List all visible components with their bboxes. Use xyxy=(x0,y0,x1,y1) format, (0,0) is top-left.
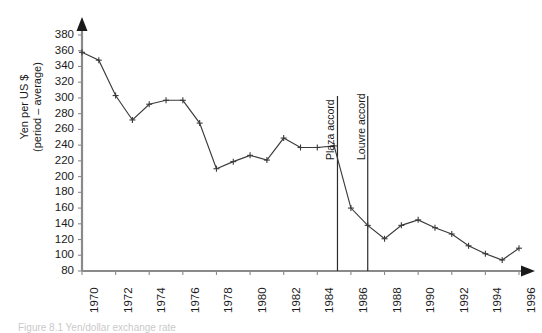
data-point-marker xyxy=(482,251,488,257)
data-point-marker xyxy=(298,144,304,150)
x-tick-label: 1980 xyxy=(256,287,268,313)
data-point-marker xyxy=(230,159,236,165)
y-tick-label: 300 xyxy=(44,91,74,103)
y-tick-label: 340 xyxy=(44,59,74,71)
figure-container: Yen per US $ (period – average) 80100120… xyxy=(0,0,542,333)
data-point-marker xyxy=(314,144,320,150)
x-tick-label: 1978 xyxy=(222,287,234,313)
x-tick-label: 1990 xyxy=(424,287,436,313)
y-tick-label: 220 xyxy=(44,154,74,166)
y-tick-label: 140 xyxy=(44,217,74,229)
x-tick-label: 1996 xyxy=(525,287,537,313)
data-point-marker xyxy=(96,57,102,63)
data-point-marker xyxy=(432,225,438,231)
y-tick-label: 280 xyxy=(44,107,74,119)
line-chart-plot xyxy=(0,0,542,333)
y-tick-label: 260 xyxy=(44,122,74,134)
data-point-marker xyxy=(247,152,253,158)
annotation-label: Plaza accord xyxy=(324,99,336,160)
data-point-marker xyxy=(163,97,169,103)
x-tick-label: 1986 xyxy=(357,287,369,313)
y-tick-label: 360 xyxy=(44,44,74,56)
x-tick-label: 1984 xyxy=(323,287,335,313)
annotation-label: Louvre accord xyxy=(355,93,367,160)
y-tick-label: 160 xyxy=(44,201,74,213)
series-polyline xyxy=(82,52,519,260)
y-tick-label: 200 xyxy=(44,170,74,182)
data-point-marker xyxy=(213,166,219,172)
figure-caption: Figure 8.1 Yen/dollar exchange rate xyxy=(18,322,176,333)
y-tick-label: 80 xyxy=(44,264,74,276)
series-markers xyxy=(79,49,522,263)
data-point-marker xyxy=(415,217,421,223)
y-axis-arrow-icon xyxy=(77,17,88,31)
x-tick-label: 1992 xyxy=(458,287,470,313)
x-tick-label: 1974 xyxy=(155,287,167,313)
x-tick-label: 1988 xyxy=(391,287,403,313)
x-tick-label: 1982 xyxy=(290,287,302,313)
y-tick-label: 380 xyxy=(44,28,74,40)
y-tick-label: 180 xyxy=(44,185,74,197)
data-series-group xyxy=(79,49,522,263)
x-tick-label: 1970 xyxy=(88,287,100,313)
x-tick-label: 1976 xyxy=(189,287,201,313)
y-tick-label: 320 xyxy=(44,75,74,87)
x-axis-arrow-icon xyxy=(521,266,535,277)
y-tick-label: 240 xyxy=(44,138,74,150)
x-tick-label: 1994 xyxy=(491,287,503,313)
y-tick-label: 120 xyxy=(44,233,74,245)
y-tick-label: 100 xyxy=(44,248,74,260)
x-tick-label: 1972 xyxy=(122,287,134,313)
axes-group xyxy=(77,17,536,277)
